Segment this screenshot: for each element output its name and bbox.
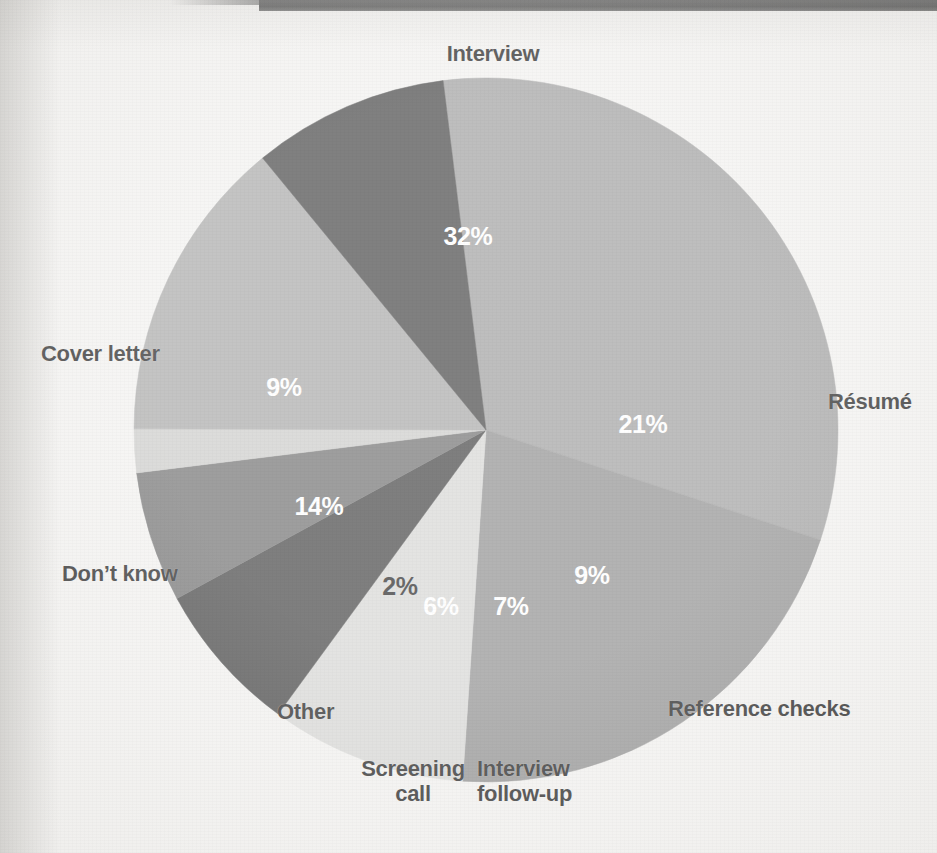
pie-value-label-screening-call: 6% <box>423 592 459 620</box>
pie-category-label-reference-checks: Reference checks <box>668 697 898 722</box>
pie-value-label-r-sum: 21% <box>619 410 668 438</box>
pie-category-label-cover-letter: Cover letter <box>41 342 211 367</box>
pie-category-label-r-sum: Résumé <box>828 390 937 415</box>
pie-category-label-interview: Interview <box>418 42 568 67</box>
pie-value-label-interview: 32% <box>444 222 493 250</box>
top-bar-shadow <box>170 0 265 5</box>
pie-value-label-cover-letter: 9% <box>266 373 302 401</box>
pie-category-label-interview-follow-up: Interview follow-up <box>477 757 627 806</box>
pie-slice-group <box>134 78 838 782</box>
chart-page: 32%21%9%7%6%2%14%9% InterviewRésuméRefer… <box>0 0 937 853</box>
pie-value-label-don-t-know: 14% <box>295 492 344 520</box>
pie-category-label-screening-call: Screening call <box>343 757 483 806</box>
pie-value-label-interview-follow-up: 7% <box>493 592 529 620</box>
pie-chart-svg: 32%21%9%7%6%2%14%9% <box>0 0 937 853</box>
pie-value-label-other: 2% <box>382 572 418 600</box>
pie-value-label-reference-checks: 9% <box>574 561 610 589</box>
pie-chart-figure: 32%21%9%7%6%2%14%9% InterviewRésuméRefer… <box>0 0 937 853</box>
top-dark-bar <box>259 0 937 11</box>
pie-category-label-other: Other <box>277 700 377 725</box>
pie-category-label-don-t-know: Don’t know <box>62 562 222 587</box>
